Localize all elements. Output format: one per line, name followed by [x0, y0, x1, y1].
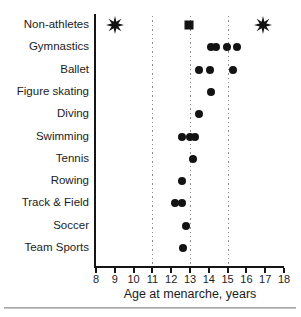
category-label: Track & Field [22, 198, 89, 210]
x-tick-label: 15 [221, 274, 233, 285]
square-marker [185, 21, 194, 30]
dot-marker [191, 133, 199, 141]
category-label: Swimming [36, 131, 89, 143]
dot-marker [178, 199, 186, 207]
x-tick-label: 16 [240, 274, 252, 285]
category-label: Ballet [60, 64, 89, 76]
dot-marker [206, 66, 214, 74]
category-label: Rowing [51, 175, 89, 187]
dot-marker [179, 244, 187, 252]
dot-marker [233, 43, 241, 51]
x-tick-label: 10 [127, 274, 139, 285]
category-label: Tennis [56, 153, 89, 165]
x-tick-label: 17 [259, 274, 271, 285]
plot-area: Age at menarche, years 89101112131415161… [94, 14, 284, 268]
dot-marker [189, 155, 197, 163]
dot-marker [195, 66, 203, 74]
menarche-dot-plot-figure: Age at menarche, years 89101112131415161… [0, 0, 301, 317]
x-gridline [228, 16, 229, 266]
x-tick-label: 14 [203, 274, 215, 285]
category-label: Team Sports [24, 242, 89, 254]
x-axis-label: Age at menarche, years [124, 288, 257, 301]
category-label: Gymnastics [29, 42, 89, 54]
eight-point-star-marker [106, 16, 124, 34]
category-label: Non-athletes [24, 19, 89, 31]
dot-marker [178, 177, 186, 185]
category-label: Diving [57, 108, 89, 120]
dot-marker [229, 66, 237, 74]
x-tick-label: 11 [147, 274, 158, 285]
bottom-divider [4, 307, 296, 309]
x-tick-label: 8 [93, 274, 99, 285]
category-label: Soccer [53, 220, 89, 232]
x-gridline [190, 16, 191, 266]
eight-point-star-marker [254, 16, 272, 34]
dot-marker [182, 222, 190, 230]
dot-marker [207, 88, 215, 96]
dot-marker [223, 43, 231, 51]
category-label: Figure skating [17, 86, 89, 98]
x-gridline [152, 16, 153, 266]
x-tick-label: 12 [165, 274, 177, 285]
dot-marker [195, 110, 203, 118]
dot-marker [212, 43, 220, 51]
x-tick-label: 9 [112, 274, 118, 285]
x-tick-label: 13 [184, 274, 196, 285]
x-tick-label: 18 [278, 274, 290, 285]
